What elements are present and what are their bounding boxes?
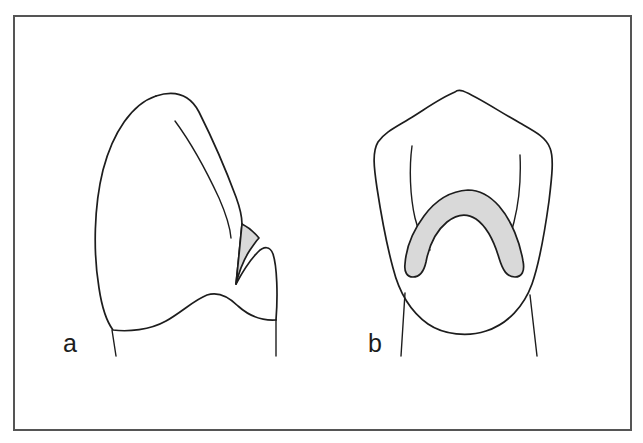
figure-container: a b [0, 0, 643, 443]
panel-b-label: b [368, 329, 382, 357]
figure-border [14, 16, 631, 430]
tooth-diagram-svg: a b [0, 0, 643, 443]
panel-a-label: a [63, 329, 77, 357]
